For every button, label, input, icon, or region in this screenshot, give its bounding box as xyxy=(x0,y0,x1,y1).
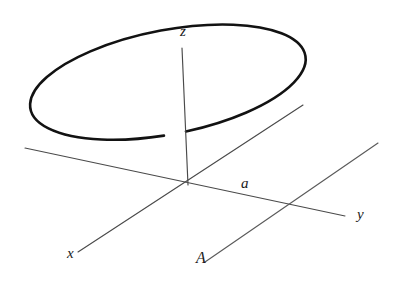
line-A-label: A xyxy=(196,250,206,266)
diagram-canvas xyxy=(0,0,400,282)
radius-label: a xyxy=(241,176,249,191)
coordinate-diagram-figure: z x y a A xyxy=(0,0,400,282)
x-axis-label: x xyxy=(67,246,74,261)
figure-background xyxy=(0,0,400,282)
y-axis-label: y xyxy=(357,207,364,222)
z-axis-label: z xyxy=(180,24,186,39)
